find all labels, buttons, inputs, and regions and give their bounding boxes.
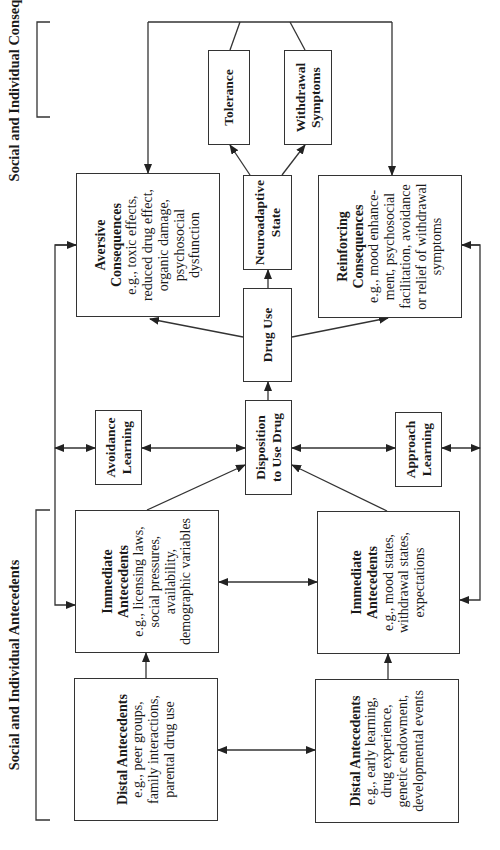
- reinforcing-desc-line2: ment, psychosocial: [382, 193, 398, 300]
- immediate-social-desc-line1: e.g., licensing laws,: [131, 526, 147, 636]
- avoidance-title-line1: Avoidance: [103, 418, 118, 478]
- aversive-desc-line3: organic damage,: [156, 199, 172, 291]
- immediate-antecedents-individual-box: Immediate Antecedents e.g., mood states,…: [317, 511, 460, 654]
- immediate-individual-desc-line2: withdrawal states,: [396, 532, 412, 633]
- neuroadaptive-title-line1: Neuroadaptive: [252, 180, 267, 265]
- antecedents-bracket: [36, 510, 50, 820]
- distal-antecedents-social-box: Distal Antecedents e.g., peer groups, fa…: [74, 678, 218, 821]
- approach-title-line1: Approach: [403, 421, 418, 479]
- distal-social-desc-line1: e.g., peer groups,: [130, 701, 146, 797]
- disposition-box: Disposition to Use Drug: [245, 400, 292, 495]
- drug-use-title: Drug Use: [260, 308, 275, 362]
- disposition-title-line1: Disposition: [253, 415, 268, 480]
- reinforcing-desc-line3: facilitation, avoidance: [398, 184, 414, 308]
- approach-title-line2: Learning: [419, 423, 434, 476]
- distal-social-title: Distal Antecedents: [115, 694, 131, 805]
- reinforcing-desc-line1: e.g., mood enhance-: [366, 190, 382, 303]
- aversive-title-line2: Consequences: [109, 203, 125, 287]
- consequences-section-label: Social and Individual Consequences: [6, 0, 23, 250]
- immediate-individual-desc-line1: e.g., mood states,: [381, 534, 397, 631]
- immediate-social-desc-line2: social pressures,: [147, 536, 163, 628]
- aversive-consequences-box: Aversive Consequences e.g., toxic effect…: [76, 173, 220, 317]
- tolerance-title: Tolerance: [221, 69, 236, 126]
- distal-antecedents-individual-box: Distal Antecedents e.g., early learning,…: [315, 679, 459, 823]
- aversive-desc-line5: dysfunction: [187, 212, 203, 278]
- drug-use-model-diagram: Social and Individual Consequences Socia…: [0, 0, 500, 850]
- aversive-desc-line2: reduced drug effect,: [140, 189, 156, 301]
- antecedents-section-label: Social and Individual Antecedents: [6, 500, 23, 830]
- avoidance-title-line2: Learning: [119, 421, 134, 474]
- approach-learning-box: Approach Learning: [395, 412, 442, 487]
- reinforcing-consequences-box: Reinforcing Consequences e.g., mood enha…: [318, 175, 462, 318]
- immediate-individual-title-line2: Antecedents: [365, 546, 381, 619]
- distal-individual-title: Distal Antecedents: [348, 696, 364, 807]
- distal-individual-desc-line3: genetic endowment,: [395, 695, 411, 808]
- neuroadaptive-state-box: Neuroadaptive State: [243, 175, 292, 270]
- aversive-title-line1: Aversive: [93, 219, 109, 270]
- distal-individual-desc-line2: drug experience,: [379, 704, 395, 797]
- reinforcing-title-line2: Consequences: [351, 205, 367, 289]
- reinforcing-desc-line4: or relief of withdrawal: [414, 183, 430, 309]
- immediate-social-title-line2: Antecedents: [116, 545, 132, 618]
- withdrawal-title-line1: Withdrawal: [293, 63, 308, 133]
- reinforcing-desc-line5: symptoms: [429, 218, 445, 276]
- immediate-individual-desc-line3: expectations: [412, 548, 428, 618]
- withdrawal-symptoms-box: Withdrawal Symptoms: [284, 50, 332, 145]
- distal-individual-desc-line1: e.g., early learning,: [363, 697, 379, 805]
- avoidance-learning-box: Avoidance Learning: [95, 410, 142, 485]
- neuroadaptive-title-line2: State: [268, 208, 283, 237]
- immediate-social-title-line1: Immediate: [100, 549, 116, 614]
- immediate-individual-title-line1: Immediate: [349, 550, 365, 615]
- tolerance-box: Tolerance: [208, 50, 250, 145]
- aversive-desc-line1: e.g., toxic effects,: [124, 195, 140, 294]
- aversive-desc-line4: psychosocial: [172, 209, 188, 281]
- immediate-social-desc-line4: demographic variables: [178, 518, 194, 645]
- immediate-social-desc-line3: availability,: [163, 549, 179, 615]
- consequences-bracket: [37, 22, 50, 117]
- distal-social-desc-line3: parental drug use: [162, 701, 178, 797]
- immediate-antecedents-social-box: Immediate Antecedents e.g., licensing la…: [75, 510, 219, 653]
- distal-social-desc-line2: family interactions,: [146, 695, 162, 804]
- drug-use-box: Drug Use: [243, 288, 292, 382]
- disposition-title-line2: to Use Drug: [269, 413, 284, 482]
- reinforcing-title-line1: Reinforcing: [335, 211, 351, 282]
- withdrawal-title-line2: Symptoms: [308, 67, 323, 128]
- distal-individual-desc-line4: developmental events: [411, 690, 427, 812]
